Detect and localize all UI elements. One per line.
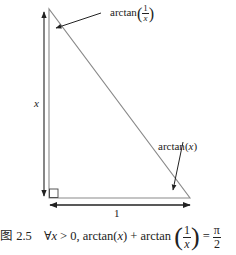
bottom-angle-label: arctan(x) — [158, 141, 197, 152]
caption-frac-den: x — [183, 238, 191, 251]
caption-arg1: x — [118, 229, 124, 243]
figure-number: 图 2.5 — [0, 229, 32, 243]
bottom-angle-func: arctan — [158, 140, 185, 152]
right-triangle — [49, 9, 190, 198]
top-angle-pointer-arrow — [56, 13, 101, 28]
caption-condition: > 0, — [60, 229, 80, 243]
top-angle-label: arctan(1x) — [110, 4, 154, 23]
rhs-den: 2 — [213, 238, 221, 251]
caption-fraction: 1x — [183, 224, 191, 250]
equals-sign: = — [203, 229, 210, 243]
figure-caption: 图 2.5 ∀x > 0, arctan(x) + arctan (1x) = … — [0, 222, 236, 252]
caption-var: x — [51, 229, 57, 243]
rhs-num: π — [213, 224, 221, 238]
plus-sign: + — [130, 229, 137, 243]
bottom-angle-arg: x — [189, 140, 194, 152]
caption-frac-num: 1 — [183, 224, 191, 238]
pi-over-two: π2 — [213, 224, 221, 250]
caption-func1: arctan — [83, 229, 114, 243]
vertical-side-label: x — [34, 98, 39, 109]
horizontal-side-label: 1 — [114, 208, 120, 219]
right-angle-marker — [50, 189, 59, 198]
top-angle-func: arctan — [110, 6, 137, 18]
caption-func2: arctan — [141, 229, 172, 243]
